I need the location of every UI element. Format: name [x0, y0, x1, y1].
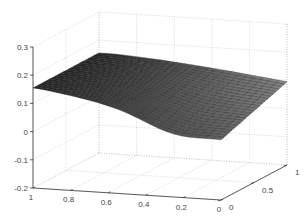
y-tick-label: 0 [229, 203, 234, 212]
surface-mesh [33, 53, 287, 140]
z-tick-label: 0 [24, 128, 29, 137]
x-tick-label: 1 [29, 193, 34, 202]
y-tick-label: 1 [295, 168, 300, 177]
grid-line-z-side [33, 12, 99, 47]
x-tick-label: 0.2 [176, 203, 188, 212]
z-tick-label: 0.1 [17, 99, 29, 108]
y-tick-label: 0.5 [262, 186, 274, 195]
x-tick-label: 0 [217, 205, 222, 214]
z-tick-label: -0.1 [14, 156, 28, 165]
x-axis-ticks: 10.80.60.40.20 [29, 187, 223, 214]
z-tick-label: 0.3 [17, 43, 29, 52]
y-axis-ticks: 00.51 [218, 165, 300, 212]
grid-line-z-side [33, 97, 99, 132]
x-tick-label: 0.6 [101, 198, 113, 207]
grid-line-y-floor [99, 153, 287, 165]
grid-line-y-floor [66, 171, 254, 183]
z-tick-label: 0.2 [17, 71, 29, 80]
z-axis-ticks: 0.30.20.10-0.1-0.2 [14, 43, 33, 193]
x-tick-mark [221, 199, 223, 200]
grid-line-z-back [99, 12, 287, 24]
x-tick-label: 0.4 [138, 200, 150, 209]
x-tick-label: 0.8 [63, 195, 75, 204]
surface-plot: 0.30.20.10-0.1-0.2 10.80.60.40.20 00.51 [0, 0, 307, 224]
z-tick-label: -0.2 [14, 184, 28, 193]
x-axis-line [33, 188, 221, 200]
grid-line-z-back [99, 40, 287, 52]
